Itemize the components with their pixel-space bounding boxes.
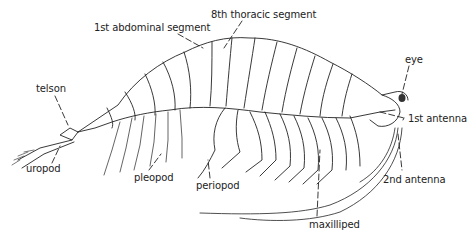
periopods	[198, 108, 360, 184]
label-pleopod: pleopod	[134, 172, 174, 184]
pleopods	[104, 110, 182, 175]
eye-shape	[399, 94, 406, 102]
tail	[12, 128, 78, 168]
amphipod-illustration	[0, 0, 467, 240]
label-periopod: periopod	[196, 180, 240, 192]
head	[370, 94, 406, 126]
antennae	[200, 128, 402, 220]
segment-lines	[107, 38, 352, 128]
label-eye: eye	[405, 54, 423, 66]
label-8th-thoracic-segment: 8th thoracic segment	[211, 9, 316, 21]
label-maxilliped: maxilliped	[309, 219, 360, 231]
label-uropod: uropod	[26, 163, 61, 175]
amphipod-diagram: telson uropod 1st abdominal segment 8th …	[0, 0, 467, 240]
label-telson: telson	[36, 83, 66, 95]
label-1st-abdominal-segment: 1st abdominal segment	[94, 22, 210, 34]
label-2nd-antenna: 2nd antenna	[383, 174, 445, 186]
label-1st-antenna: 1st antenna	[408, 113, 467, 125]
